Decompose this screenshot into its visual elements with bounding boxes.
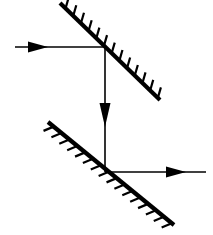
diagram-canvas xyxy=(0,0,213,235)
optics-ray-diagram xyxy=(0,0,213,235)
